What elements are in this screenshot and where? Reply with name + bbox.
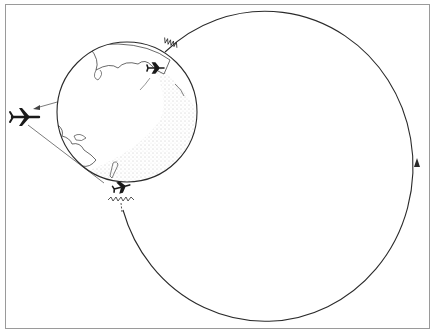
- signal-lower-icon: [108, 197, 134, 201]
- sight-line-upper-arrow-icon: [33, 105, 40, 110]
- signal-upper-icon: [162, 34, 179, 50]
- diagram-frame: [0, 0, 431, 334]
- earth-globe: [57, 42, 200, 190]
- distant-aircraft-icon: [10, 108, 39, 126]
- orbit-direction-arrow-icon: [414, 158, 420, 167]
- diagram-canvas: [0, 0, 431, 334]
